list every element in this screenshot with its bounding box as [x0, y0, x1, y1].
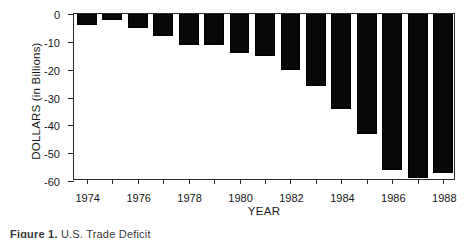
x-tick: 1980 — [240, 179, 241, 184]
y-tick-label: -60 — [44, 176, 60, 188]
bar — [230, 14, 250, 53]
bar — [128, 14, 148, 28]
bar — [382, 14, 402, 170]
y-tick-label: -50 — [44, 148, 60, 160]
bar — [306, 14, 326, 86]
y-tick: -20 — [68, 70, 74, 71]
x-tick-label: 1980 — [228, 192, 252, 204]
y-tick: -30 — [68, 98, 74, 99]
x-tick — [265, 179, 266, 184]
x-tick — [367, 179, 368, 184]
x-tick-label: 1982 — [279, 192, 303, 204]
bar — [255, 14, 275, 56]
bar — [179, 14, 199, 45]
y-tick: -40 — [68, 125, 74, 126]
caption-text: U.S. Trade Deficit — [61, 228, 151, 238]
x-tick-label: 1978 — [177, 192, 201, 204]
y-tick: -10 — [68, 42, 74, 43]
y-tick-label: 0 — [54, 9, 60, 21]
bar — [357, 14, 377, 134]
y-tick: -60 — [68, 181, 74, 182]
bar — [408, 14, 428, 178]
bar — [281, 14, 301, 70]
x-tick-label: 1984 — [330, 192, 354, 204]
x-tick-label: 1976 — [126, 192, 150, 204]
y-axis-title: DOLLARS (in Billions) — [30, 21, 42, 181]
x-tick: 1982 — [290, 179, 291, 184]
x-tick — [163, 179, 164, 184]
figure-container: DOLLARS (in Billions) 0-10-20-30-40-50-6… — [0, 0, 468, 238]
x-tick: 1986 — [392, 179, 393, 184]
x-tick: 1978 — [189, 179, 190, 184]
bar — [331, 14, 351, 109]
figure-caption: Figure 1. U.S. Trade Deficit — [10, 228, 151, 238]
plot-area: 0-10-20-30-40-50-60 19741976197819801982… — [73, 13, 455, 180]
bar — [102, 14, 122, 20]
y-tick-label: -40 — [44, 120, 60, 132]
bar — [433, 14, 453, 173]
bar — [153, 14, 173, 36]
y-tick-label: -20 — [44, 65, 60, 77]
x-axis-title: YEAR — [73, 205, 455, 217]
x-tick: 1974 — [87, 179, 88, 184]
y-tick: -50 — [68, 153, 74, 154]
x-tick: 1976 — [138, 179, 139, 184]
x-tick — [214, 179, 215, 184]
x-tick-label: 1988 — [432, 192, 456, 204]
bar — [77, 14, 97, 25]
x-tick: 1984 — [341, 179, 342, 184]
y-tick: 0 — [68, 14, 74, 15]
y-tick-label: -30 — [44, 93, 60, 105]
x-tick: 1988 — [443, 179, 444, 184]
x-tick — [418, 179, 419, 184]
x-tick — [112, 179, 113, 184]
bar — [204, 14, 224, 45]
caption-lead: Figure 1. — [10, 228, 58, 238]
x-tick-label: 1986 — [381, 192, 405, 204]
y-tick-label: -10 — [44, 37, 60, 49]
x-tick — [316, 179, 317, 184]
x-tick-label: 1974 — [75, 192, 99, 204]
